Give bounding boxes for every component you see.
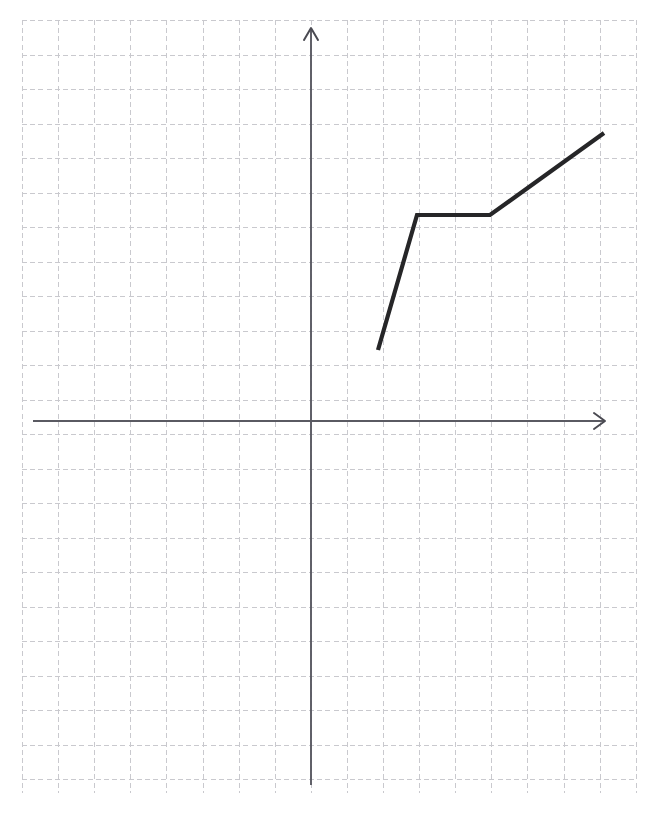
grid-horizontal-lines xyxy=(22,21,636,780)
grid-vertical-lines xyxy=(23,20,637,793)
graph-canvas xyxy=(0,0,663,838)
axes xyxy=(33,28,605,785)
graph-svg xyxy=(0,0,663,838)
